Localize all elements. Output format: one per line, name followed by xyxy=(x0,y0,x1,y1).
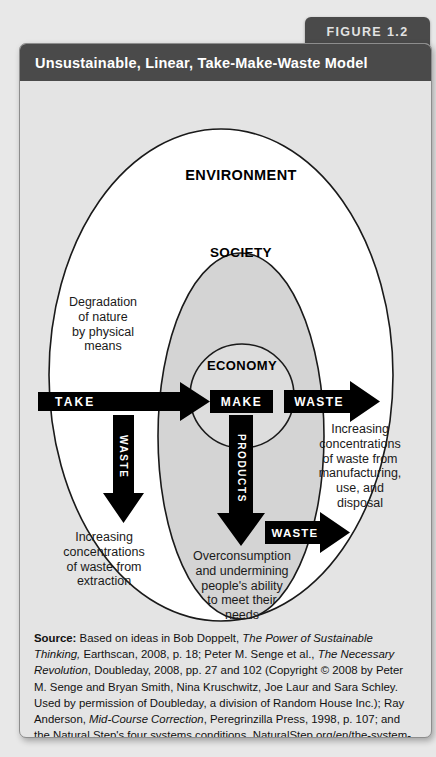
figure-header-bar: Unsustainable, Linear, Take-Make-Waste M… xyxy=(20,44,431,81)
figure-number-tab: FIGURE 1.2 xyxy=(305,17,430,46)
economy-label: ECONOMY xyxy=(182,358,302,373)
society-label: SOCIETY xyxy=(181,245,301,260)
make-box xyxy=(210,390,273,413)
environment-label: ENVIRONMENT xyxy=(151,167,331,183)
source-label: Source: xyxy=(34,632,76,644)
annotation-degradation: Degradation of nature by physical means xyxy=(42,295,164,354)
figure-number-label: FIGURE 1.2 xyxy=(326,25,408,39)
annotation-extraction: Increasing concentrations of waste from … xyxy=(42,530,166,589)
figure-title: Unsustainable, Linear, Take-Make-Waste M… xyxy=(20,55,368,71)
source-title-3: Mid-Course Correction xyxy=(89,713,204,725)
annotation-overconsumption: Overconsumption and undermining people's… xyxy=(167,549,317,623)
source-part-2: Earthscan, 2008, p. 18; Peter M. Senge e… xyxy=(80,648,317,660)
source-part-1: Based on ideas in Bob Doppelt, xyxy=(76,632,242,644)
figure-panel: Unsustainable, Linear, Take-Make-Waste M… xyxy=(19,43,432,738)
source-note: Source: Based on ideas in Bob Doppelt, T… xyxy=(20,630,431,738)
annotation-manufacturing: Increasing concentrations of waste from … xyxy=(304,422,416,511)
diagram-stage: ENVIRONMENT SOCIETY ECONOMY TAKE MAKE WA… xyxy=(20,81,431,626)
